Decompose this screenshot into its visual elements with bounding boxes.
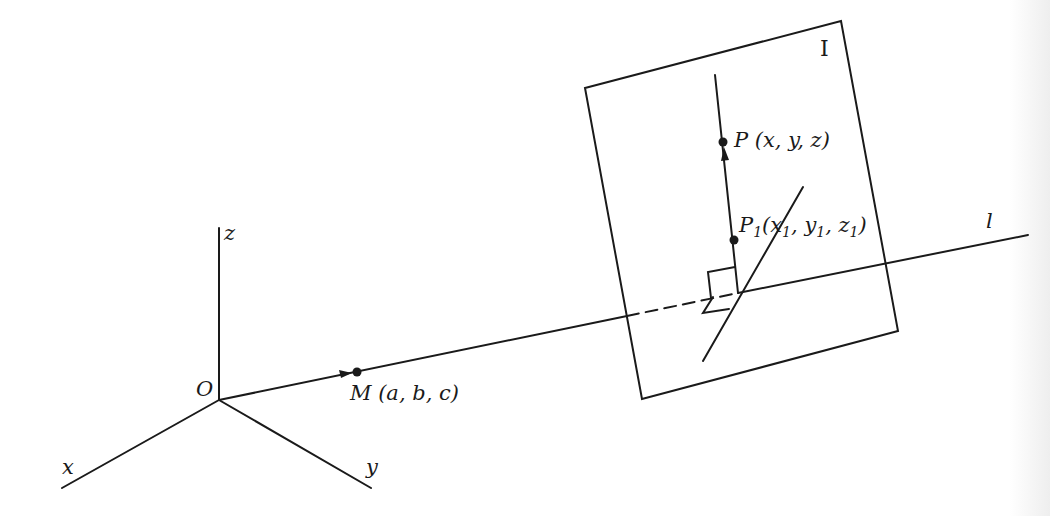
point-m-dot xyxy=(353,368,362,377)
x-axis xyxy=(62,400,219,488)
y-axis xyxy=(219,400,371,488)
label-y: y xyxy=(365,455,379,479)
label-x: x xyxy=(62,455,74,479)
label-point-m: M (a, b, c) xyxy=(349,381,459,405)
geometry-figure: z x y O M (a, b, c) P (x, y, z) P1(x1, y… xyxy=(0,0,1050,516)
diagram-canvas: z x y O M (a, b, c) P (x, y, z) P1(x1, y… xyxy=(0,0,1050,516)
line-l-back xyxy=(738,235,1028,293)
label-line-l: l xyxy=(986,209,993,233)
point-p1-dot xyxy=(730,236,739,245)
label-point-p1: P1(x1, y1, z1) xyxy=(738,213,867,240)
label-plane-i: I xyxy=(820,36,829,61)
label-point-p: P (x, y, z) xyxy=(733,128,830,152)
plane-i xyxy=(585,21,898,399)
line-l-hidden xyxy=(627,293,738,316)
label-z: z xyxy=(223,221,236,245)
right-angle-mark-vertical xyxy=(708,267,735,298)
line-p-p1 xyxy=(715,75,738,293)
point-p-dot xyxy=(719,138,728,147)
label-origin: O xyxy=(196,377,213,401)
